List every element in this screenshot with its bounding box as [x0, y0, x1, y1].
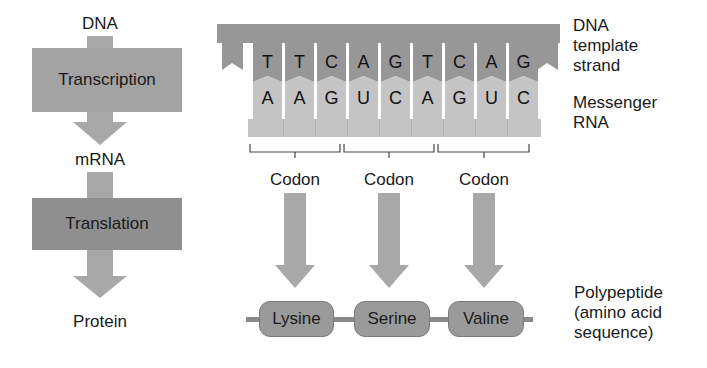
dna-base: A — [477, 52, 507, 72]
flow-step-mrna: mRNA — [50, 150, 150, 170]
transcription-label: Transcription — [58, 70, 156, 90]
rna-base: U — [477, 88, 507, 108]
rna-base: U — [349, 88, 379, 108]
codon-label: Codon — [444, 170, 524, 190]
translation-box: Translation — [32, 198, 182, 250]
amino-acid-label: Valine — [463, 309, 509, 329]
amino-acid-label: Serine — [367, 309, 416, 329]
amino-acid-valine: Valine — [448, 301, 524, 337]
dna-base: G — [509, 52, 539, 72]
flow-step-protein: Protein — [50, 312, 150, 332]
dna-base: G — [381, 52, 411, 72]
codon-label: Codon — [255, 170, 335, 190]
dna-base: A — [349, 52, 379, 72]
rna-base: A — [253, 88, 283, 108]
translation-arrows — [275, 193, 504, 288]
amino-acid-label: Lysine — [272, 309, 321, 329]
rna-base: A — [285, 88, 315, 108]
rna-base: C — [509, 88, 539, 108]
dna-base: C — [445, 52, 475, 72]
rna-base: G — [317, 88, 347, 108]
flow-step-dna: DNA — [50, 14, 150, 34]
dna-base: T — [253, 52, 283, 72]
messenger-rna-label: Messenger RNA — [573, 93, 657, 133]
polypeptide-label: Polypeptide (amino acid sequence) — [574, 283, 663, 343]
dna-base: C — [317, 52, 347, 72]
amino-acid-serine: Serine — [354, 301, 430, 337]
dna-template-strand-label: DNA template strand — [573, 16, 638, 76]
codon-brackets — [250, 144, 529, 158]
codon-label: Codon — [349, 170, 429, 190]
transcription-box: Transcription — [32, 48, 182, 112]
translation-label: Translation — [65, 214, 148, 234]
rna-base: G — [445, 88, 475, 108]
rna-base: C — [381, 88, 411, 108]
dna-base: T — [285, 52, 315, 72]
dna-base: T — [413, 52, 443, 72]
amino-acid-lysine: Lysine — [259, 301, 334, 337]
rna-base: A — [413, 88, 443, 108]
